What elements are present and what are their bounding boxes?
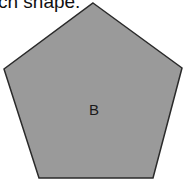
- pentagon-shape-b: B: [0, 0, 185, 180]
- shape-label: B: [89, 101, 99, 118]
- pentagon-polygon: [4, 3, 182, 178]
